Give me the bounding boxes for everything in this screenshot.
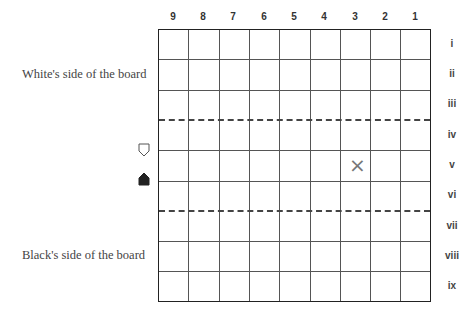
grid-line [279,30,280,301]
x-mark-icon: × [349,155,366,175]
white-shogi-piece-icon [138,143,150,157]
grid-line [159,59,430,60]
row-label-viii: viii [437,250,467,261]
grid-line [370,30,371,301]
promotion-zone-divider-black [159,210,430,212]
grid-line [249,30,250,301]
promotion-zone-divider-white [159,119,430,121]
column-label-4: 4 [309,11,339,22]
grid-line [400,30,401,301]
row-label-i: i [437,38,467,49]
white-side-label: White's side of the board [22,67,146,82]
grid-line [219,30,220,301]
column-label-8: 8 [188,11,218,22]
grid-line [159,181,430,182]
grid-line [159,150,430,151]
grid-line [159,271,430,272]
grid-line [159,241,430,242]
black-shogi-piece-icon [138,172,150,186]
grid-line [188,30,189,301]
row-label-iii: iii [437,98,467,109]
row-label-iv: iv [437,129,467,140]
column-label-5: 5 [279,11,309,22]
row-label-vii: vii [437,220,467,231]
column-label-3: 3 [340,11,370,22]
grid-line [159,90,430,91]
column-label-2: 2 [370,11,400,22]
row-label-v: v [437,159,467,170]
grid-line [340,30,341,301]
column-label-6: 6 [249,11,279,22]
shogi-board: × [158,29,431,302]
column-label-7: 7 [218,11,248,22]
row-label-ix: ix [437,280,467,291]
row-label-vi: vi [437,189,467,200]
grid-line [310,30,311,301]
column-label-9: 9 [158,11,188,22]
black-side-label: Black's side of the board [22,248,145,263]
row-label-ii: ii [437,68,467,79]
column-label-1: 1 [400,11,430,22]
